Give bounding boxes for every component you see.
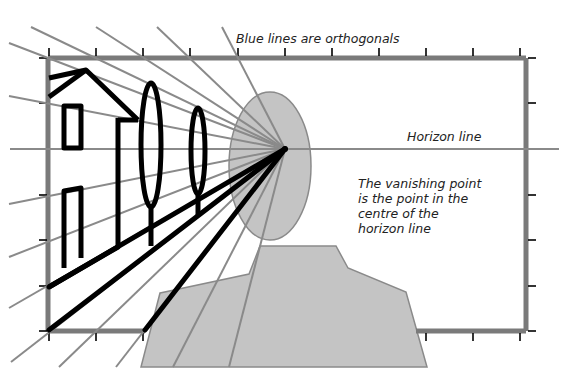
orthogonals-caption: Blue lines are orthogonals <box>236 31 400 46</box>
horizon-caption: Horizon line <box>407 129 481 144</box>
house <box>49 70 138 287</box>
caption-line: is the point in the <box>358 191 481 206</box>
vanishing-point-caption: The vanishing point is the point in the … <box>358 176 481 236</box>
perspective-diagram <box>0 0 570 387</box>
caption-line: The vanishing point <box>358 176 481 191</box>
vanishing-point <box>282 146 288 152</box>
caption-line: centre of the <box>358 206 481 221</box>
caption-line: horizon line <box>358 221 481 236</box>
viewer-shoulders <box>141 246 427 367</box>
